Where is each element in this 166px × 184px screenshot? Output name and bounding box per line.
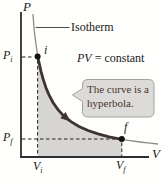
tick-label-v-initial: Vi: [33, 160, 43, 172]
point-marker-f: [119, 136, 125, 142]
y-axis-label: P: [23, 0, 31, 13]
tick-label-v-final: Vf: [116, 159, 126, 171]
callout-text: The curve is a hyperbola.: [87, 83, 151, 110]
point-label-i: i: [44, 44, 47, 56]
equation-label: PV= constant: [77, 52, 144, 64]
tick-label-p-final: Pf: [3, 131, 13, 143]
isotherm-curve-right-segment: [122, 139, 158, 144]
point-marker-i: [35, 54, 41, 60]
tick-label-p-initial: Pi: [3, 49, 13, 61]
isotherm-label: Isotherm: [71, 21, 114, 33]
x-axis-label: V: [152, 147, 160, 160]
callout-text-line2: hyperbola.: [87, 97, 151, 111]
point-label-f: f: [124, 121, 127, 133]
isotherm-curve-upper-segment: [33, 14, 38, 56]
pv-diagram-figure: P V Isotherm PV= constant i f Pi Pf Vi V…: [0, 0, 166, 184]
callout-text-line1: The curve is a: [87, 83, 151, 97]
